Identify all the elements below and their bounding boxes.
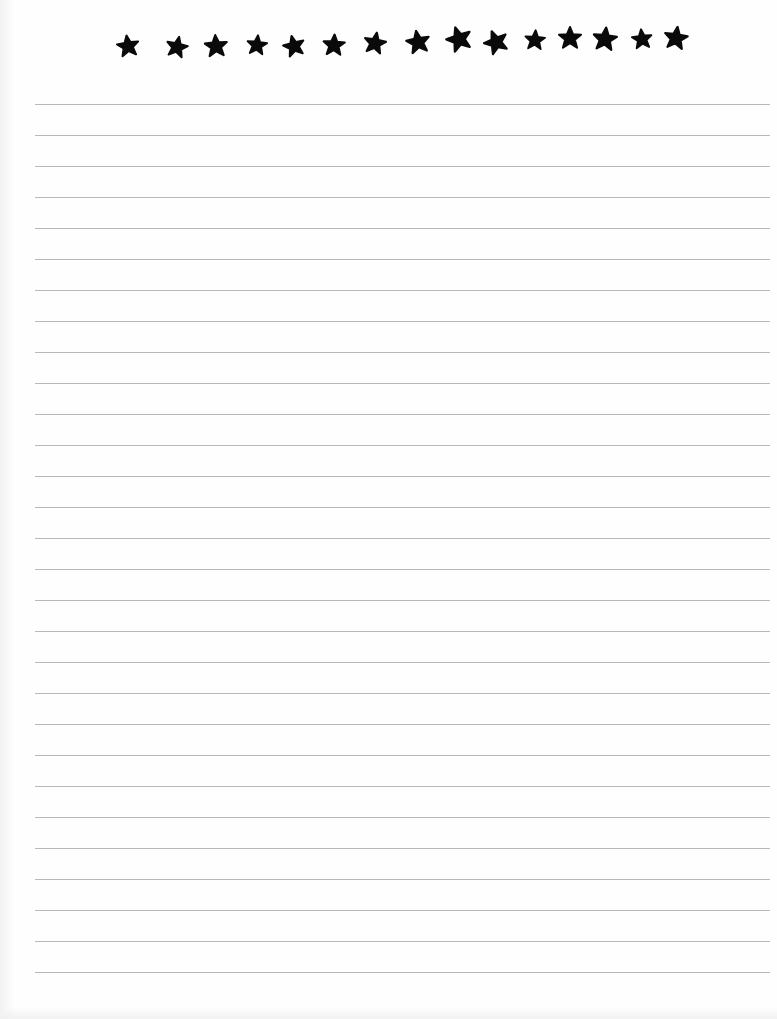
lined-paper-page: [0, 0, 777, 1019]
star-header-row: [0, 0, 777, 80]
ruled-line: [35, 352, 770, 353]
star-icon: [558, 26, 583, 51]
star-icon: [662, 24, 691, 53]
ruled-line: [35, 476, 770, 477]
ruled-line: [35, 228, 770, 229]
star-icon: [321, 32, 346, 57]
star-icon: [523, 28, 547, 52]
star-icon: [203, 33, 229, 59]
ruled-line: [35, 786, 770, 787]
star-icon: [442, 22, 476, 56]
ruled-line: [35, 104, 770, 105]
star-icon: [361, 29, 389, 57]
ruled-line: [35, 383, 770, 384]
star-icon: [114, 32, 141, 59]
ruled-line: [35, 662, 770, 663]
ruled-line: [35, 755, 770, 756]
ruled-line: [35, 693, 770, 694]
ruled-line: [35, 600, 770, 601]
star-icon: [163, 33, 191, 61]
ruled-line: [35, 569, 770, 570]
ruled-line: [35, 972, 770, 973]
ruled-line: [35, 817, 770, 818]
ruled-line: [35, 166, 770, 167]
ruled-line: [35, 445, 770, 446]
star-icon: [280, 32, 308, 60]
ruled-line: [35, 631, 770, 632]
star-icon: [630, 27, 654, 51]
star-icon: [479, 25, 513, 59]
ruled-line: [35, 848, 770, 849]
ruled-line: [35, 197, 770, 198]
ruled-line: [35, 507, 770, 508]
ruled-line: [35, 290, 770, 291]
ruled-line: [35, 879, 770, 880]
ruled-line: [35, 910, 770, 911]
ruled-line: [35, 135, 770, 136]
ruled-line: [35, 321, 770, 322]
ruled-line: [35, 724, 770, 725]
star-icon: [403, 27, 433, 57]
ruled-line: [35, 259, 770, 260]
ruled-line: [35, 941, 770, 942]
ruled-line: [35, 414, 770, 415]
star-icon: [245, 33, 269, 57]
star-icon: [591, 25, 620, 54]
ruled-line: [35, 538, 770, 539]
